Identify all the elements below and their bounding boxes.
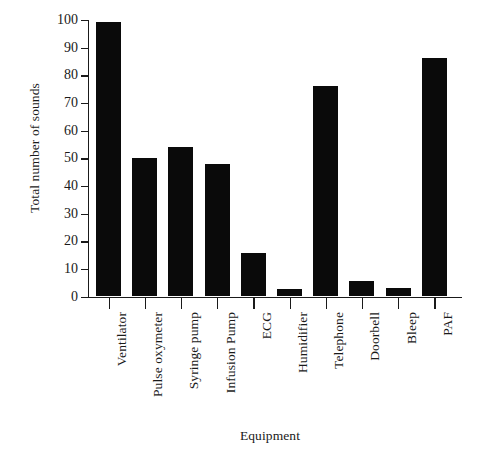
- x-axis-tick-label: Ventilator: [114, 312, 130, 366]
- x-axis-tick: [145, 298, 146, 309]
- x-axis-tick-label: Humidifier: [295, 312, 311, 373]
- x-axis-tick: [217, 298, 218, 309]
- plot-area: 0102030405060708090100 VentilatorPulse o…: [88, 20, 462, 297]
- bar: [422, 58, 447, 296]
- bar: [205, 164, 230, 297]
- bar: [132, 158, 157, 296]
- x-axis-tick-label: Pulse oxymeter: [150, 312, 166, 397]
- x-axis-tick-label: Telephone: [331, 312, 347, 369]
- x-axis-tick: [290, 298, 291, 309]
- y-axis-line: [88, 20, 89, 298]
- x-axis-tick-label: Doorbell: [367, 312, 383, 361]
- bar: [168, 147, 193, 296]
- x-axis-tick-label: Bleep: [404, 312, 420, 344]
- y-axis-tick: 0: [81, 297, 88, 298]
- y-axis-tick-label: 50: [64, 148, 78, 167]
- y-axis-tick: 20: [81, 241, 88, 242]
- y-axis-tick-label: 0: [71, 287, 78, 306]
- x-axis-tick: [109, 298, 110, 309]
- x-axis-tick: [326, 298, 327, 309]
- y-axis-tick: 60: [81, 131, 88, 132]
- y-axis-tick-label: 70: [64, 93, 78, 112]
- bar: [386, 288, 411, 296]
- x-axis-title: Equipment: [70, 428, 470, 444]
- y-axis-tick-label: 90: [64, 38, 78, 57]
- x-axis-tick: [434, 298, 435, 309]
- x-axis-tick-label: PAF: [440, 312, 456, 336]
- x-axis-tick: [362, 298, 363, 309]
- y-axis-tick: 80: [81, 75, 88, 76]
- bar: [313, 86, 338, 296]
- y-axis-title: Total number of sounds: [27, 28, 43, 268]
- y-axis-tick-label: 60: [64, 121, 78, 140]
- bar-chart-figure: Total number of sounds Equipment 0102030…: [0, 0, 487, 462]
- y-axis-tick: 50: [81, 158, 88, 159]
- y-axis-tick: 100: [81, 20, 88, 21]
- y-axis-tick-label: 80: [64, 65, 78, 84]
- y-axis-tick: 70: [81, 103, 88, 104]
- y-axis-tick: 30: [81, 214, 88, 215]
- x-axis-tick-label: Syringe pump: [186, 312, 202, 389]
- y-axis-tick: 40: [81, 186, 88, 187]
- y-axis-tick: 90: [81, 48, 88, 49]
- x-axis-tick-label: ECG: [259, 312, 275, 339]
- bar: [349, 281, 374, 296]
- y-axis-tick-label: 100: [57, 10, 78, 29]
- bar: [96, 22, 121, 296]
- y-axis-tick: 10: [81, 269, 88, 270]
- bar: [277, 289, 302, 296]
- y-axis-tick-label: 20: [64, 231, 78, 250]
- x-axis-tick: [253, 298, 254, 309]
- x-axis-tick-label: Infusion Pump: [223, 312, 239, 393]
- x-axis-tick: [181, 298, 182, 309]
- y-axis-tick-label: 30: [64, 204, 78, 223]
- bar: [241, 253, 266, 296]
- y-axis-tick-label: 10: [64, 259, 78, 278]
- x-axis-tick: [398, 298, 399, 309]
- y-axis-tick-label: 40: [64, 176, 78, 195]
